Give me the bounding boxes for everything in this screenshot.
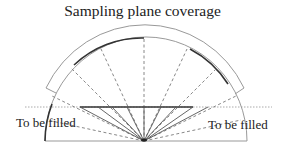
inner-arc-dark-upper-left xyxy=(74,38,144,65)
outer-band-arc xyxy=(46,25,244,88)
inner-arc-dark-upper-right xyxy=(190,49,228,84)
outer-band-left-cap xyxy=(46,88,56,93)
label-right: To be filled xyxy=(208,117,268,133)
outer-band-right-cap xyxy=(235,88,244,94)
apex-point xyxy=(141,138,147,141)
diagram-title: Sampling plane coverage xyxy=(0,2,285,20)
solid-rays xyxy=(80,107,208,141)
label-left: To be filled xyxy=(16,115,76,131)
